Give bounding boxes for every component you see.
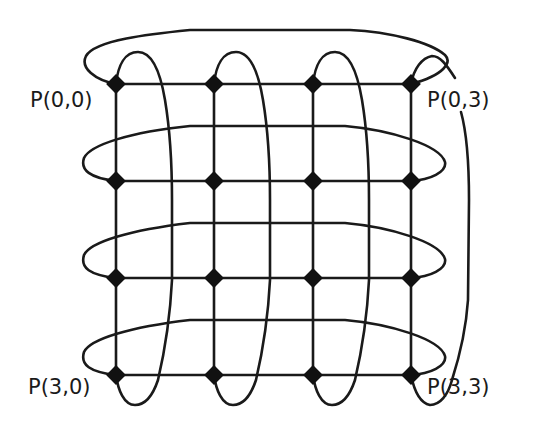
node-0-1: [204, 74, 224, 94]
label-top-right: P(0,3): [427, 88, 489, 112]
node-3-1: [204, 365, 224, 385]
node-3-3: [401, 365, 421, 385]
node-0-3: [401, 74, 421, 94]
node-2-0: [106, 268, 126, 288]
node-0-0: [106, 74, 126, 94]
node-1-2: [303, 171, 323, 191]
column-wraparound-links: [116, 52, 469, 405]
node-1-1: [204, 171, 224, 191]
node-3-2: [303, 365, 323, 385]
mesh-diagram: P(0,0) P(0,3) P(3,0) P(3,3): [0, 0, 537, 430]
label-bottom-right: P(3,3): [427, 375, 489, 399]
node-3-0: [106, 365, 126, 385]
label-bottom-left: P(3,0): [28, 375, 90, 399]
node-2-2: [303, 268, 323, 288]
label-top-left: P(0,0): [30, 88, 92, 112]
node-1-3: [401, 171, 421, 191]
node-1-0: [106, 171, 126, 191]
node-2-1: [204, 268, 224, 288]
node-0-2: [303, 74, 323, 94]
node-2-3: [401, 268, 421, 288]
